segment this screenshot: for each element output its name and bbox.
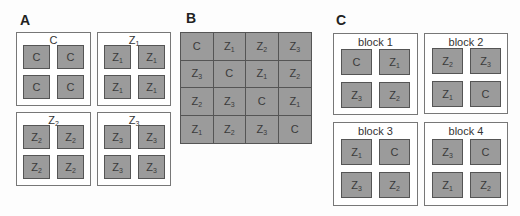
panel-a-box-c: C C C C C — [16, 32, 91, 106]
grid-cell: Z1 — [246, 61, 279, 89]
treatment-cell: Z2 — [470, 172, 501, 198]
treatment-cell: C — [379, 139, 410, 165]
treatment-cell: Z2 — [432, 48, 463, 74]
block-title: block 3 — [334, 125, 417, 137]
treatment-cell: Z2 — [379, 82, 410, 108]
latin-square-grid: C Z1 Z2 Z3 Z3 C Z1 Z2 Z2 Z3 C Z1 Z1 Z2 Z… — [180, 32, 312, 144]
treatment-cell: C — [23, 45, 50, 69]
treatment-cell: Z1 — [432, 172, 463, 198]
treatment-cell: Z2 — [57, 125, 84, 149]
grid-cell: Z3 — [181, 61, 214, 89]
block-4: block 4 Z3 C Z1 Z2 — [424, 122, 508, 206]
block-3: block 3 Z1 C Z3 Z2 — [333, 122, 418, 206]
treatment-cell: C — [23, 75, 50, 99]
panel-a-box-z1: Z1 Z1 Z1 Z1 Z1 — [97, 32, 171, 106]
treatment-cell: C — [341, 49, 372, 75]
treatment-cell: Z3 — [341, 172, 372, 198]
treatment-cell: Z1 — [379, 49, 410, 75]
treatment-cell: Z1 — [104, 45, 131, 69]
treatment-cell: Z2 — [379, 172, 410, 198]
grid-cell: C — [279, 116, 312, 144]
block-title: block 4 — [425, 125, 507, 137]
treatment-cell: Z3 — [138, 125, 165, 149]
panel-label-c: C — [336, 12, 346, 28]
treatment-cell: Z3 — [432, 139, 463, 165]
grid-cell: Z2 — [279, 61, 312, 89]
panel-a-box-z2: Z2 Z2 Z2 Z2 Z2 — [16, 112, 91, 186]
treatment-cell: C — [57, 75, 84, 99]
treatment-cell: Z3 — [138, 155, 165, 179]
grid-cell: Z2 — [214, 116, 247, 144]
grid-cell: Z2 — [181, 88, 214, 116]
panel-a-box-z3: Z3 Z3 Z3 Z3 Z3 — [97, 112, 171, 186]
treatment-cell: Z1 — [341, 139, 372, 165]
grid-cell: Z3 — [246, 116, 279, 144]
block-1: block 1 C Z1 Z3 Z2 — [333, 33, 418, 115]
block-title: block 1 — [334, 36, 417, 48]
treatment-cell: C — [470, 81, 501, 107]
treatment-cell: C — [470, 139, 501, 165]
grid-cell: Z2 — [246, 33, 279, 61]
grid-cell: Z3 — [214, 88, 247, 116]
treatment-cell: Z3 — [341, 82, 372, 108]
grid-cell: Z3 — [279, 33, 312, 61]
grid-cell: C — [246, 88, 279, 116]
grid-cell: C — [214, 61, 247, 89]
treatment-cell: Z1 — [138, 45, 165, 69]
treatment-cell: C — [57, 45, 84, 69]
treatment-cell: Z3 — [470, 48, 501, 74]
treatment-cell: Z2 — [23, 125, 50, 149]
grid-cell: Z1 — [214, 33, 247, 61]
treatment-cell: Z1 — [432, 81, 463, 107]
grid-cell: C — [181, 33, 214, 61]
treatment-cell: Z3 — [104, 125, 131, 149]
treatment-cell: Z1 — [104, 75, 131, 99]
treatment-cell: Z3 — [104, 155, 131, 179]
grid-cell: Z1 — [181, 116, 214, 144]
panel-label-a: A — [20, 12, 30, 28]
panel-label-b: B — [186, 10, 196, 26]
block-title: block 2 — [425, 36, 507, 48]
treatment-cell: Z1 — [138, 75, 165, 99]
treatment-cell: Z2 — [23, 155, 50, 179]
block-2: block 2 Z2 Z3 Z1 C — [424, 33, 508, 114]
treatment-cell: Z2 — [57, 155, 84, 179]
grid-cell: Z1 — [279, 88, 312, 116]
